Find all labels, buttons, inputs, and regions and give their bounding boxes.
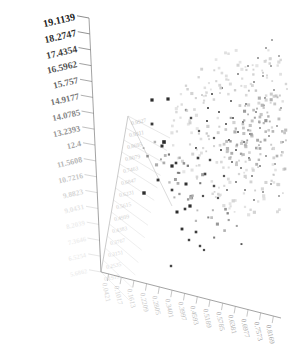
data-point: [234, 211, 236, 213]
data-point: [228, 167, 230, 169]
data-point: [277, 118, 280, 121]
data-point: [155, 163, 158, 166]
data-point: [278, 195, 280, 197]
data-point: [225, 140, 228, 143]
data-point: [196, 165, 198, 167]
data-point: [264, 119, 267, 122]
data-point: [188, 119, 190, 121]
data-point: [216, 161, 219, 164]
x-tick-mark: [260, 313, 261, 320]
data-point: [240, 85, 242, 87]
data-point: [278, 208, 281, 211]
z-axis-line-outer: [128, 116, 172, 206]
data-point: [181, 103, 183, 105]
data-point: [239, 104, 242, 107]
data-point: [173, 196, 175, 198]
data-point: [198, 133, 200, 135]
data-point: [275, 94, 278, 97]
data-point: [265, 94, 268, 97]
data-point: [248, 90, 250, 92]
data-point: [254, 190, 256, 192]
data-point: [255, 163, 258, 166]
data-point: [233, 130, 236, 133]
data-point: [245, 69, 247, 71]
data-point: [256, 108, 258, 110]
data-point: [178, 157, 180, 159]
data-point: [199, 182, 201, 184]
data-point: [213, 145, 215, 147]
data-point: [235, 181, 237, 183]
data-point: [244, 105, 246, 107]
data-point: [213, 185, 215, 187]
data-point: [265, 47, 267, 49]
data-point: [186, 88, 188, 90]
data-point: [248, 151, 251, 154]
data-point: [220, 161, 223, 164]
data-point: [227, 52, 230, 55]
x-tick-mark: [247, 310, 248, 317]
data-point: [241, 140, 244, 143]
data-point: [161, 145, 164, 148]
data-point: [247, 114, 249, 116]
data-point: [285, 83, 287, 85]
data-point: [179, 117, 181, 119]
y-tick-mark: [80, 79, 92, 81]
data-point: [251, 175, 253, 177]
data-point: [259, 153, 261, 155]
data-point: [195, 231, 198, 234]
data-point: [193, 108, 196, 111]
data-point: [270, 183, 272, 185]
data-point: [261, 104, 264, 107]
y-tick-mark: [83, 143, 95, 145]
data-point: [183, 162, 186, 165]
data-point: [270, 65, 272, 67]
data-point: [262, 197, 265, 200]
data-point: [266, 74, 268, 76]
data-point: [272, 174, 274, 176]
data-point: [212, 209, 214, 211]
data-point: [229, 202, 232, 205]
data-point: [250, 133, 253, 136]
data-point: [237, 73, 239, 75]
data-point: [251, 119, 254, 122]
data-point: [180, 93, 182, 95]
data-point: [211, 93, 213, 95]
data-point: [198, 164, 200, 166]
x-tick-mark: [158, 287, 159, 294]
data-point: [250, 180, 253, 183]
data-point: [249, 209, 251, 211]
data-point: [190, 131, 193, 134]
data-point: [177, 182, 180, 185]
data-point: [237, 64, 240, 67]
data-point: [257, 200, 259, 202]
y-tick-mark: [82, 127, 94, 129]
data-point: [240, 167, 242, 169]
data-point: [241, 154, 243, 156]
data-point: [254, 117, 256, 119]
data-point: [229, 83, 232, 86]
data-point: [201, 173, 204, 176]
data-point: [253, 211, 256, 214]
data-point: [173, 119, 175, 121]
data-point: [253, 199, 255, 201]
data-point: [150, 98, 153, 101]
data-point: [251, 167, 253, 169]
data-point: [251, 84, 254, 87]
data-point: [265, 59, 267, 61]
data-point: [218, 84, 221, 87]
data-point: [215, 80, 217, 82]
data-point: [215, 196, 217, 198]
data-point: [268, 135, 270, 137]
data-point: [206, 132, 208, 134]
data-point: [265, 155, 267, 157]
y-tick-mark: [77, 16, 89, 18]
data-point: [226, 189, 228, 191]
data-point: [242, 127, 245, 130]
y-tick-mark: [79, 48, 91, 50]
data-point: [279, 73, 282, 76]
data-point: [181, 228, 184, 231]
data-point: [277, 61, 280, 64]
data-point: [248, 158, 251, 161]
data-point: [267, 129, 270, 132]
data-point: [187, 165, 189, 167]
